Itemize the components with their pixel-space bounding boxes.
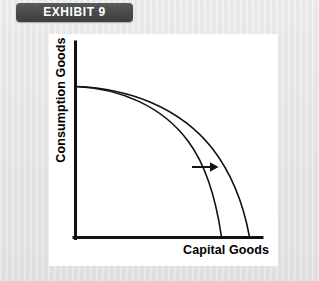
x-axis-label-text: Capital Goods (183, 243, 269, 257)
y-axis-label-text: Consumption Goods (54, 37, 68, 162)
exhibit-banner: EXHIBIT 9 (16, 3, 133, 22)
exhibit-banner-label: EXHIBIT 9 (16, 3, 133, 22)
exhibit-figure: EXHIBIT 9 Consumption Goods Capital Good… (0, 0, 319, 281)
chart-panel (49, 34, 278, 266)
